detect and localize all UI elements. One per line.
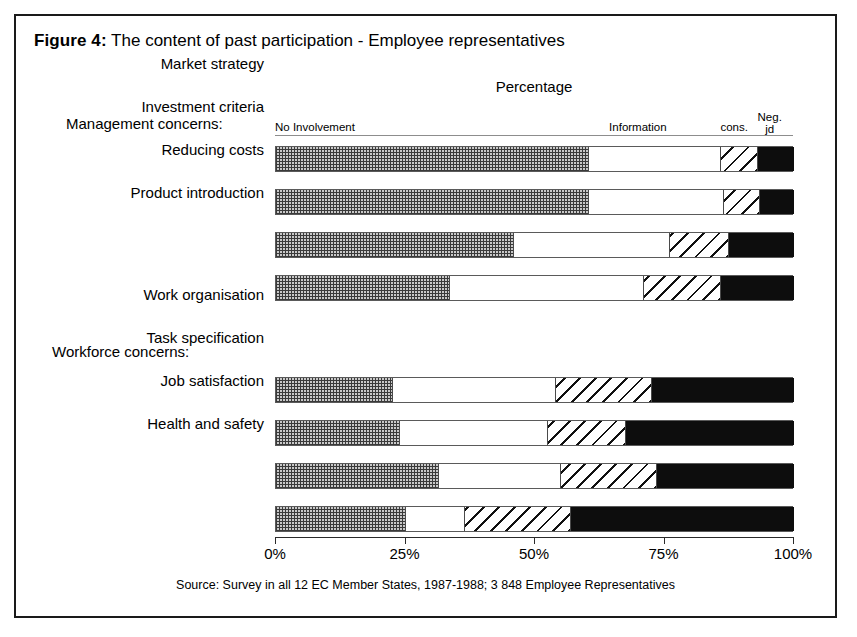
bar-segment-no-involvement [276,464,439,488]
bar-row [275,275,793,301]
category-label: Investment criteria [34,97,264,117]
bar-segment-consultation [561,464,657,488]
bar-row [275,420,793,446]
source-note: Source: Survey in all 12 EC Member State… [16,578,835,592]
bar-row [275,146,793,172]
bar-segment-negotiation [571,507,794,531]
bar-segment-consultation [724,190,760,214]
bar-segment-information [514,233,669,257]
bar-segment-consultation [721,147,757,171]
bar-segment-consultation [670,233,730,257]
bar-segment-information [589,147,721,171]
bar-segment-consultation [644,276,722,300]
x-axis-tick [534,537,535,544]
category-label: Market strategy [34,54,264,74]
bar-row [275,377,793,403]
bar-segment-no-involvement [276,147,589,171]
bar-segment-negotiation [729,233,794,257]
bar-segment-consultation [548,421,626,445]
category-label: Task specification [34,328,264,348]
x-axis-tick-label: 50% [519,545,549,562]
x-axis-tick [405,537,406,544]
x-axis-tick [793,537,794,544]
x-axis-tick-label: 0% [264,545,286,562]
bar-segment-no-involvement [276,507,406,531]
category-label: Job satisfaction [34,371,264,391]
bar-segment-information [400,421,548,445]
bar-segment-no-involvement [276,190,589,214]
bar-segment-negotiation [760,190,794,214]
bar-row [275,463,793,489]
category-label: Work organisation [34,285,264,305]
category-label: Product introduction [34,183,264,203]
figure-frame: Figure 4: The content of past participat… [14,14,837,618]
x-axis-tick-label: 100% [774,545,812,562]
bar-segment-no-involvement [276,276,450,300]
bar-segment-negotiation [657,464,794,488]
bar-segment-negotiation [652,378,794,402]
bar-segment-no-involvement [276,421,400,445]
bar-segment-negotiation [758,147,794,171]
bar-segment-no-involvement [276,233,514,257]
x-axis-tick [275,537,276,544]
axis-title: Percentage [275,78,793,95]
bar-segment-information [393,378,556,402]
bar-segment-negotiation [721,276,794,300]
x-axis-tick-label: 75% [648,545,678,562]
category-label: Health and safety [34,414,264,434]
bar-segment-consultation [465,507,571,531]
bar-row [275,232,793,258]
x-axis-tick [664,537,665,544]
plot-area [275,112,793,536]
bar-segment-information [450,276,644,300]
category-labels: Market strategyInvestment criteriaReduci… [32,16,264,440]
bar-segment-no-involvement [276,378,393,402]
category-label: Reducing costs [34,140,264,160]
bar-row [275,189,793,215]
x-axis-tick-label: 25% [389,545,419,562]
bar-segment-negotiation [626,421,794,445]
bar-segment-information [406,507,466,531]
bar-segment-consultation [556,378,652,402]
bar-segment-information [589,190,724,214]
bar-row [275,506,793,532]
bar-segment-information [439,464,561,488]
